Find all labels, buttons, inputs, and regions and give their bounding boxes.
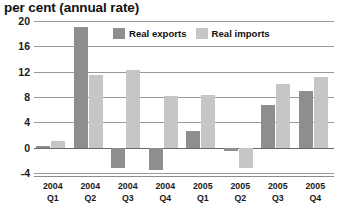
x-tick-line: Q1 — [33, 193, 73, 205]
x-tick-line: 2004 — [145, 181, 185, 193]
bar — [299, 91, 313, 148]
bar-group — [109, 21, 147, 173]
x-tick-label: 2005Q4 — [295, 181, 335, 204]
bar — [201, 95, 215, 148]
bar — [126, 70, 140, 148]
bar-chart: per cent (annual rate) 201612840-4 2004Q… — [0, 0, 339, 213]
bottom-edge — [0, 210, 339, 213]
bar — [74, 27, 88, 147]
gridline--4 — [34, 173, 334, 174]
x-tick-label: 2004Q4 — [145, 181, 185, 204]
plot-area — [34, 21, 334, 173]
x-tick-line: Q2 — [220, 193, 260, 205]
x-tick-line: Q3 — [258, 193, 298, 205]
legend-item: Real exports — [113, 28, 187, 39]
x-tick-label: 2004Q1 — [33, 181, 73, 204]
bar-group — [259, 21, 297, 173]
bar — [224, 148, 238, 151]
bar-group — [34, 21, 72, 173]
x-tick-line: 2004 — [70, 181, 110, 193]
x-tick-line: 2004 — [33, 181, 73, 193]
bar — [314, 77, 328, 148]
x-tick-label: 2005Q3 — [258, 181, 298, 204]
bar — [36, 146, 50, 148]
bar — [51, 141, 65, 147]
legend-item: Real imports — [196, 28, 270, 39]
y-tick-label-12: 12 — [18, 66, 30, 78]
bar-group — [297, 21, 335, 173]
bar-group — [184, 21, 222, 173]
x-tick-line: 2005 — [220, 181, 260, 193]
x-tick-label: 2005Q2 — [220, 181, 260, 204]
x-axis-line — [34, 176, 334, 177]
chart-title: per cent (annual rate) — [4, 0, 139, 15]
bar — [111, 148, 125, 168]
x-tick-line: Q4 — [295, 193, 335, 205]
y-tick-label--4: -4 — [21, 167, 30, 179]
x-tick-line: Q1 — [183, 193, 223, 205]
x-tick-label: 2005Q1 — [183, 181, 223, 204]
x-tick-line: 2005 — [258, 181, 298, 193]
chart-legend: Real exportsReal imports — [113, 28, 270, 39]
x-tick-line: 2004 — [108, 181, 148, 193]
x-tick-label: 2004Q3 — [108, 181, 148, 204]
legend-swatch-icon — [196, 28, 208, 39]
bar-group — [147, 21, 185, 173]
bar — [276, 84, 290, 147]
x-axis-labels: 2004Q12004Q22004Q32004Q42005Q12005Q22005… — [34, 181, 334, 211]
y-tick-label-16: 16 — [18, 40, 30, 52]
y-axis-labels: 201612840-4 — [0, 21, 32, 173]
x-tick-line: 2005 — [183, 181, 223, 193]
bar — [261, 105, 275, 147]
bar — [89, 75, 103, 148]
x-tick-line: Q2 — [70, 193, 110, 205]
x-tick-line: Q4 — [145, 193, 185, 205]
bar — [164, 96, 178, 148]
x-tick-line: 2005 — [295, 181, 335, 193]
legend-label: Real imports — [212, 28, 270, 39]
x-tick-label: 2004Q2 — [70, 181, 110, 204]
y-tick-label-8: 8 — [24, 91, 30, 103]
legend-label: Real exports — [129, 28, 187, 39]
bar-group — [72, 21, 110, 173]
bar — [239, 148, 253, 168]
bar — [186, 131, 200, 148]
bar — [149, 148, 163, 170]
bar-group — [222, 21, 260, 173]
y-tick-label-20: 20 — [18, 15, 30, 27]
legend-swatch-icon — [113, 28, 125, 39]
x-tick-line: Q3 — [108, 193, 148, 205]
y-tick-label-0: 0 — [24, 142, 30, 154]
y-tick-label-4: 4 — [24, 116, 30, 128]
